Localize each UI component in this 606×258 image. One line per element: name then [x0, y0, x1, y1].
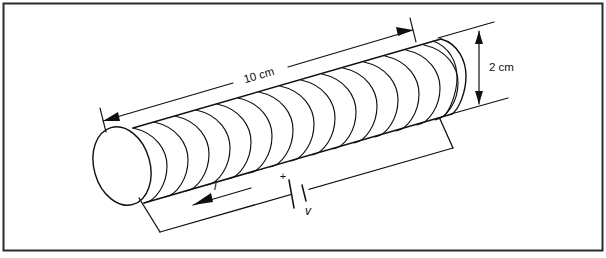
- figure-border: [4, 4, 603, 251]
- diameter-dimension-label: 2 cm: [489, 61, 514, 73]
- current-label: i: [214, 179, 217, 193]
- figure-panel: 10 cm 2 cm: [0, 0, 606, 258]
- voltage-label: v: [305, 204, 312, 218]
- battery-polarity-label: +: [280, 170, 286, 182]
- solenoid-diagram: 10 cm 2 cm: [0, 0, 606, 258]
